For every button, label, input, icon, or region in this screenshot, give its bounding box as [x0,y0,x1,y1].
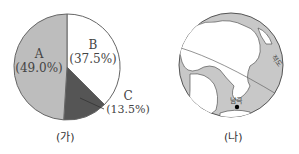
label-c-pct: (13.5%) [106,103,150,117]
label-a-pct: (49.0%) [14,61,64,75]
label-b-pct: (37.5%) [68,52,118,66]
globe-figure: 적도 남극 (나) [150,0,299,154]
south-pole-marker [235,105,239,109]
south-pole-label: 남극 [230,95,242,105]
pie-chart-figure: A (49.0%) B (37.5%) C (13.5%) (가) [0,0,150,154]
label-a: A (49.0%) [14,47,64,75]
caption-na: (나) [224,128,243,144]
label-b-name: B [68,38,118,52]
caption-ga: (가) [56,128,75,144]
label-b: B (37.5%) [68,38,118,66]
pie-chart [0,0,150,154]
label-a-name: A [14,47,64,61]
label-c-name: C [106,89,150,103]
label-c: C (13.5%) [106,89,150,117]
